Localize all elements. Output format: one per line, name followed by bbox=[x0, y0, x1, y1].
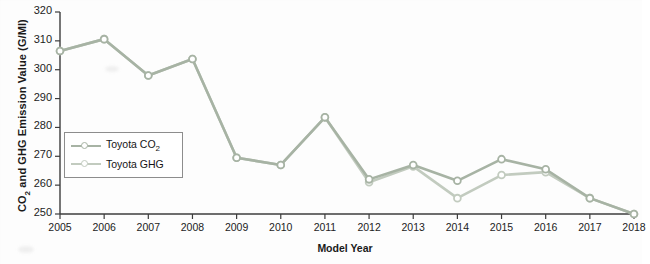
data-point bbox=[454, 177, 461, 184]
x-tick-label: 2016 bbox=[523, 221, 569, 233]
x-tick-label: 2013 bbox=[390, 221, 436, 233]
legend-swatch-co2 bbox=[71, 140, 101, 152]
y-tick-label: 290 bbox=[18, 91, 52, 103]
data-point bbox=[145, 72, 152, 79]
legend-swatch-ghg bbox=[71, 158, 101, 170]
data-point bbox=[322, 114, 329, 121]
legend-label-co2-sub: 2 bbox=[156, 144, 160, 153]
data-point bbox=[454, 195, 461, 202]
x-tick-label: 2018 bbox=[611, 221, 650, 233]
y-tick-label: 260 bbox=[18, 177, 52, 189]
y-tick-label: 320 bbox=[18, 4, 52, 16]
x-tick-label: 2009 bbox=[214, 221, 260, 233]
x-tick-label: 2012 bbox=[346, 221, 392, 233]
legend-item-ghg: Toyota GHG bbox=[71, 154, 164, 173]
y-tick-label: 300 bbox=[18, 62, 52, 74]
y-tick-label: 270 bbox=[18, 148, 52, 160]
series-ghg bbox=[57, 36, 638, 218]
data-point bbox=[586, 195, 593, 202]
data-point bbox=[631, 211, 638, 218]
x-tick-label: 2015 bbox=[479, 221, 525, 233]
x-tick-label: 2005 bbox=[37, 221, 83, 233]
data-point bbox=[233, 154, 240, 161]
y-tick-marks bbox=[55, 12, 60, 214]
x-tick-label: 2010 bbox=[258, 221, 304, 233]
y-tick-label: 310 bbox=[18, 33, 52, 45]
x-tick-label: 2017 bbox=[567, 221, 613, 233]
data-point bbox=[101, 36, 108, 43]
legend-label-co2-text: Toyota CO bbox=[106, 138, 156, 150]
series-co2 bbox=[57, 36, 638, 218]
chart-legend: Toyota CO2 Toyota GHG bbox=[64, 132, 183, 178]
data-point bbox=[498, 172, 505, 179]
data-point bbox=[410, 162, 417, 169]
data-series-group bbox=[57, 36, 638, 218]
x-tick-marks bbox=[60, 214, 634, 219]
data-point bbox=[189, 56, 196, 63]
x-tick-label: 2006 bbox=[81, 221, 127, 233]
data-point bbox=[542, 166, 549, 173]
y-tick-label: 280 bbox=[18, 119, 52, 131]
data-point bbox=[498, 156, 505, 163]
x-tick-label: 2007 bbox=[125, 221, 171, 233]
y-tick-label: 250 bbox=[18, 206, 52, 218]
legend-label-co2: Toyota CO2 bbox=[106, 138, 160, 153]
x-tick-label: 2011 bbox=[302, 221, 348, 233]
legend-label-ghg: Toyota GHG bbox=[106, 158, 164, 170]
legend-item-co2: Toyota CO2 bbox=[71, 136, 160, 155]
data-point bbox=[57, 48, 64, 55]
data-point bbox=[277, 162, 284, 169]
data-point bbox=[366, 176, 373, 183]
x-tick-label: 2008 bbox=[169, 221, 215, 233]
x-tick-label: 2014 bbox=[434, 221, 480, 233]
